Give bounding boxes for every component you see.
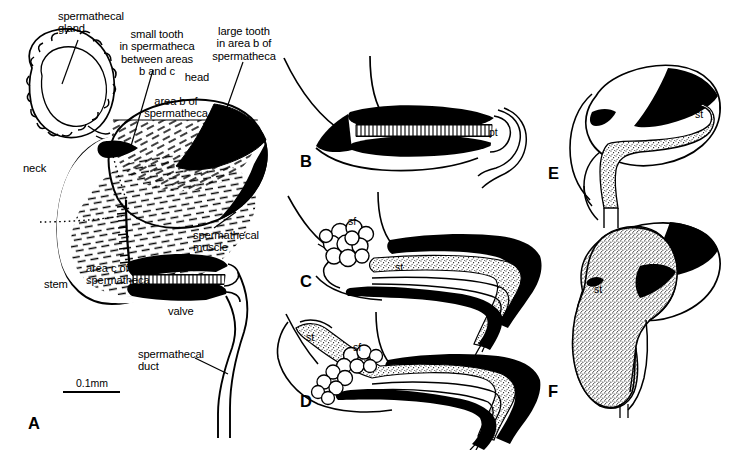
sf-label-panel-d: sf [353,341,361,353]
label-spermathecal-duct: spermathecal duct [138,348,204,373]
label-small-tooth: small tooth in spermatheca between areas… [119,28,194,78]
panel-letter-a: A [28,414,40,433]
label-large-tooth: large tooth in area b of spermatheca [212,25,276,62]
label-area-b: area b of spermatheca [144,95,208,120]
sf-label-panel-c: sf [348,215,356,227]
st-label-panel-e: st [695,108,703,120]
pt-label-panel-b: pt [489,126,498,138]
label-spermathecal-muscle: spermathecal muscle [193,229,259,254]
label-head: head [185,71,210,83]
label-area-c: area c of spermatheca [86,262,150,287]
st-label-panel-c: st [395,261,403,273]
panel-letter-e: E [548,164,559,183]
spermatheca-figure [0,0,729,450]
panel-letter-c: C [300,272,312,291]
st-label-panel-f: st [594,283,602,295]
label-neck: neck [23,162,46,174]
b-valve-comb [356,125,492,136]
panel-letter-f: F [548,382,558,401]
label-stem: stem [44,278,68,290]
label-spermathecal-gland: spermathecal gland [58,10,124,35]
panel-letter-b: B [300,152,312,171]
st-label-panel-d: st [306,331,314,343]
scale-bar-label: 0.1mm [76,377,108,389]
label-valve: valve [168,305,194,317]
panel-letter-d: D [300,392,312,411]
